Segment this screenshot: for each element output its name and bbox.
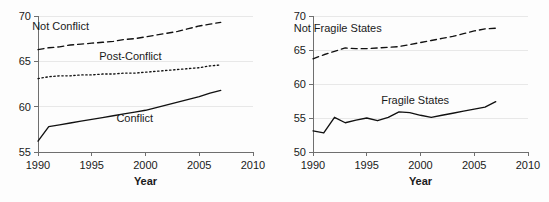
chart-panel-right: 505560657019901995200020052010YearNot Fr… xyxy=(274,0,548,202)
y-tick-label-65: 65 xyxy=(19,55,31,67)
series-label-0: Not Fragile States xyxy=(294,22,383,34)
series-label-2: Conflict xyxy=(116,112,153,124)
y-tick-label-60: 60 xyxy=(294,78,306,90)
x-tick-label-1995: 1995 xyxy=(355,159,379,171)
x-tick-label-2005: 2005 xyxy=(462,159,486,171)
line-chart-left: 5560657019901995200020052010YearNot Conf… xyxy=(0,0,274,202)
x-tick-label-1990: 1990 xyxy=(301,159,325,171)
series-label-0: Not Conflict xyxy=(32,20,89,32)
x-tick-label-1990: 1990 xyxy=(26,159,50,171)
x-axis-title: Year xyxy=(409,175,433,187)
x-tick-label-2010: 2010 xyxy=(516,159,540,171)
line-chart-right: 505560657019901995200020052010YearNot Fr… xyxy=(274,0,549,202)
y-tick-label-70: 70 xyxy=(294,10,306,22)
y-tick-label-55: 55 xyxy=(19,146,31,158)
x-tick-label-2000: 2000 xyxy=(133,159,157,171)
series-label-1: Post-Conflict xyxy=(99,50,161,62)
x-tick-label-2000: 2000 xyxy=(408,159,432,171)
y-tick-label-65: 65 xyxy=(294,44,306,56)
x-tick-label-2010: 2010 xyxy=(241,159,265,171)
figure-container: 5560657019901995200020052010YearNot Conf… xyxy=(0,0,549,202)
y-tick-label-55: 55 xyxy=(294,112,306,124)
x-tick-label-2005: 2005 xyxy=(187,159,211,171)
series-line-1 xyxy=(38,65,221,79)
y-tick-label-60: 60 xyxy=(19,101,31,113)
x-tick-label-1995: 1995 xyxy=(80,159,104,171)
chart-panel-left: 5560657019901995200020052010YearNot Conf… xyxy=(0,0,274,202)
series-label-1: Fragile States xyxy=(381,94,449,106)
y-tick-label-50: 50 xyxy=(294,146,306,158)
x-axis-title: Year xyxy=(134,175,158,187)
y-tick-label-70: 70 xyxy=(19,10,31,22)
